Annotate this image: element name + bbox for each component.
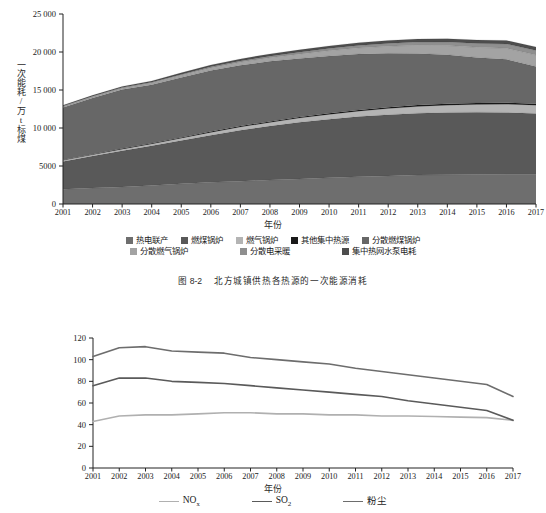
top-legend-item[interactable]: 分散燃煤锅炉 <box>362 236 420 244</box>
legend-swatch-icon <box>342 248 349 255</box>
top-legend-label: 燃气锅炉 <box>246 236 278 244</box>
bottom-chart-y-tick-label: 40 <box>40 420 86 430</box>
bottom-chart-x-tick-label: 2002 <box>106 472 132 481</box>
bottom-legend-label: SO2 <box>276 496 292 508</box>
bottom-chart-series-line <box>93 413 513 422</box>
bottom-chart-x-tick-label: 2003 <box>133 472 159 481</box>
top-chart-plot-area <box>0 0 546 232</box>
legend-swatch-icon <box>240 248 247 255</box>
bottom-chart-legend: NOxSO2粉尘 <box>0 496 546 511</box>
top-legend-label: 其他集中热源 <box>301 236 349 244</box>
top-chart-x-tick-label: 2002 <box>79 208 107 217</box>
top-legend-item[interactable]: 其他集中热源 <box>291 236 349 244</box>
bottom-chart-x-tick-label: 2011 <box>343 472 369 481</box>
bottom-chart-y-tick-label: 80 <box>40 376 86 386</box>
legend-swatch-icon <box>362 237 369 244</box>
bottom-chart-svg <box>0 300 546 490</box>
legend-line-icon <box>159 501 179 502</box>
bottom-chart-x-tick-label: 2005 <box>185 472 211 481</box>
bottom-chart-y-tick-label: 60 <box>40 398 86 408</box>
figure-bottom-line-chart: 排放总量/万t 年份 NOxSO2粉尘 02040608010012020012… <box>0 300 546 513</box>
top-legend-label: 分散燃气锅炉 <box>140 247 188 255</box>
top-legend-item[interactable]: 分散电采暖 <box>240 247 290 255</box>
top-legend-item[interactable]: 集中热网水泵电耗 <box>342 247 416 255</box>
top-chart-y-tick-label: 20 000 <box>0 47 56 57</box>
top-chart-x-tick-label: 2013 <box>404 208 432 217</box>
top-chart-x-tick-label: 2005 <box>167 208 195 217</box>
top-chart-y-tick-label: 0 <box>0 199 56 209</box>
figure-page: 一次能耗/万t标煤 年份 热电联产燃煤锅炉燃气锅炉其他集中热源分散燃煤锅炉 分散… <box>0 0 546 513</box>
bottom-chart-x-tick-label: 2006 <box>211 472 237 481</box>
top-chart-y-tick-label: 25 000 <box>0 9 56 19</box>
legend-swatch-icon <box>181 237 188 244</box>
bottom-chart-x-tick-label: 2009 <box>290 472 316 481</box>
top-chart-x-tick-label: 2003 <box>108 208 136 217</box>
top-chart-y-tick-label: 15 000 <box>0 85 56 95</box>
top-chart-y-tick-label: 5000 <box>0 161 56 171</box>
top-chart-x-tick-label: 2012 <box>374 208 402 217</box>
top-legend-item[interactable]: 热电联产 <box>126 236 168 244</box>
top-legend-label: 分散燃煤锅炉 <box>372 236 420 244</box>
top-chart-x-tick-label: 2007 <box>226 208 254 217</box>
legend-line-icon <box>343 501 363 502</box>
top-chart-x-tick-label: 2014 <box>433 208 461 217</box>
top-legend-label: 分散电采暖 <box>250 247 290 255</box>
bottom-legend-item[interactable]: 粉尘 <box>343 497 387 507</box>
bottom-chart-y-tick-label: 120 <box>40 333 86 343</box>
top-chart-x-tick-label: 2008 <box>256 208 284 217</box>
figure-top-stacked-area: 一次能耗/万t标煤 年份 热电联产燃煤锅炉燃气锅炉其他集中热源分散燃煤锅炉 分散… <box>0 0 546 295</box>
top-chart-y-tick-label: 10 000 <box>0 123 56 133</box>
top-chart-x-tick-label: 2017 <box>522 208 546 217</box>
bottom-chart-legend-row: NOxSO2粉尘 <box>0 496 546 508</box>
bottom-chart-x-tick-label: 2012 <box>369 472 395 481</box>
top-chart-caption-text: 北方城镇供热各热源的一次能源消耗 <box>214 276 368 286</box>
top-chart-x-tick-label: 2010 <box>315 208 343 217</box>
top-legend-label: 集中热网水泵电耗 <box>352 247 416 255</box>
bottom-chart-x-tick-label: 2015 <box>448 472 474 481</box>
bottom-legend-item[interactable]: NOx <box>159 496 200 507</box>
top-chart-x-tick-label: 2004 <box>138 208 166 217</box>
top-chart-legend-row-1: 热电联产燃煤锅炉燃气锅炉其他集中热源分散燃煤锅炉 <box>0 236 546 244</box>
top-legend-item[interactable]: 燃气锅炉 <box>236 236 278 244</box>
bottom-legend-label: 粉尘 <box>367 497 387 507</box>
bottom-chart-x-tick-label: 2017 <box>500 472 526 481</box>
bottom-chart-x-tick-label: 2014 <box>421 472 447 481</box>
top-chart-x-tick-label: 2011 <box>345 208 373 217</box>
legend-line-icon <box>252 501 272 502</box>
bottom-chart-y-tick-label: 20 <box>40 441 86 451</box>
top-chart-legend-row-2: 分散燃气锅炉分散电采暖集中热网水泵电耗 <box>0 247 546 255</box>
bottom-chart-plot-area <box>0 300 546 490</box>
top-chart-caption: 图 8-2 北方城镇供热各热源的一次能源消耗 <box>0 274 546 286</box>
legend-swatch-icon <box>236 237 243 244</box>
top-chart-x-tick-label: 2016 <box>492 208 520 217</box>
bottom-chart-x-tick-label: 2001 <box>80 472 106 481</box>
bottom-chart-x-tick-label: 2008 <box>264 472 290 481</box>
bottom-legend-label: NOx <box>183 496 200 507</box>
top-chart-legend: 热电联产燃煤锅炉燃气锅炉其他集中热源分散燃煤锅炉 分散燃气锅炉分散电采暖集中热网… <box>0 236 546 259</box>
top-chart-x-tick-label: 2015 <box>463 208 491 217</box>
bottom-chart-y-tick-label: 100 <box>40 355 86 365</box>
legend-swatch-icon <box>291 237 298 244</box>
bottom-chart-x-axis-label: 年份 <box>0 482 546 495</box>
top-chart-x-axis-label: 年份 <box>0 218 546 231</box>
top-legend-item[interactable]: 燃煤锅炉 <box>181 236 223 244</box>
top-legend-item[interactable]: 分散燃气锅炉 <box>130 247 188 255</box>
bottom-chart-x-tick-label: 2013 <box>395 472 421 481</box>
top-legend-label: 热电联产 <box>136 236 168 244</box>
bottom-chart-x-tick-label: 2007 <box>238 472 264 481</box>
bottom-chart-x-tick-label: 2010 <box>316 472 342 481</box>
bottom-chart-series-line <box>93 347 513 397</box>
legend-swatch-icon <box>126 237 133 244</box>
bottom-chart-x-tick-label: 2004 <box>159 472 185 481</box>
bottom-chart-x-tick-label: 2016 <box>474 472 500 481</box>
bottom-legend-item[interactable]: SO2 <box>252 496 292 508</box>
top-chart-x-tick-label: 2001 <box>49 208 77 217</box>
legend-swatch-icon <box>130 248 137 255</box>
top-chart-x-tick-label: 2009 <box>286 208 314 217</box>
top-chart-x-tick-label: 2006 <box>197 208 225 217</box>
top-chart-caption-number: 图 8-2 <box>178 276 202 286</box>
top-chart-svg <box>0 0 546 232</box>
top-legend-label: 燃煤锅炉 <box>191 236 223 244</box>
